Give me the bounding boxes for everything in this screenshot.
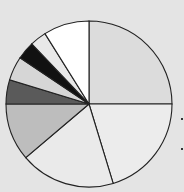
cropped-label-fragment bbox=[181, 118, 183, 120]
pie-chart bbox=[0, 0, 184, 192]
pie-slice-1 bbox=[89, 21, 172, 104]
pie-slices bbox=[6, 21, 172, 187]
cropped-label-fragment bbox=[181, 148, 183, 150]
